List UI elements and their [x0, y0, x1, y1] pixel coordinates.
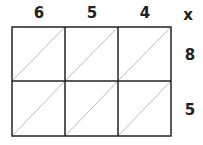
lattice-grid [0, 0, 203, 145]
grid-lines [12, 27, 171, 136]
